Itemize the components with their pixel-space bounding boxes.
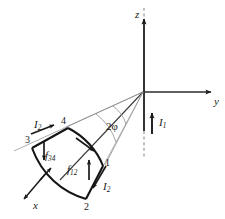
current-label-i2-top: I2 (34, 119, 41, 132)
sector-arc-41-inner (68, 128, 103, 166)
physics-figure: z y x I1 I2 I2 f34 f12 2φ 1 2 3 4 (0, 0, 225, 219)
angle-label-2phi: 2φ (106, 121, 118, 132)
vertex-label-2: 2 (84, 202, 89, 212)
current-label-i2-bottom: I2 (103, 181, 110, 194)
x-axis-back-arrow (40, 168, 51, 180)
axis-label-y: y (214, 96, 219, 107)
vertex-label-3: 3 (25, 135, 30, 145)
vertex-label-4: 4 (61, 116, 66, 126)
force-label-f34-sub: 34 (48, 155, 55, 163)
vertex-label-1: 1 (105, 158, 110, 168)
current-label-i2-bottom-sub: 2 (107, 186, 111, 194)
axis-label-x: x (33, 200, 38, 211)
current-label-i1: I1 (159, 117, 166, 130)
current-label-i2-top-sub: 2 (38, 124, 42, 132)
force-label-f34: f34 (45, 150, 55, 163)
axis-label-z: z (135, 9, 139, 20)
current-label-i1-sub: 1 (163, 122, 167, 130)
sector-arc-23-outer (32, 148, 86, 199)
x-axis (24, 168, 51, 199)
figure-canvas (0, 0, 225, 219)
force-label-f12: f12 (67, 164, 77, 177)
force-label-f12-sub: 12 (70, 169, 77, 177)
sector-radial-lines (14, 92, 143, 198)
